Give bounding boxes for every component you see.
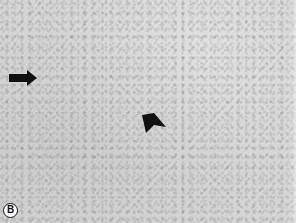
arrow-right-icon (9, 70, 37, 86)
arrowhead-icon (140, 111, 166, 135)
panel-label: B (3, 203, 18, 218)
image-edge (290, 0, 296, 223)
micrograph-panel: B (0, 0, 296, 223)
